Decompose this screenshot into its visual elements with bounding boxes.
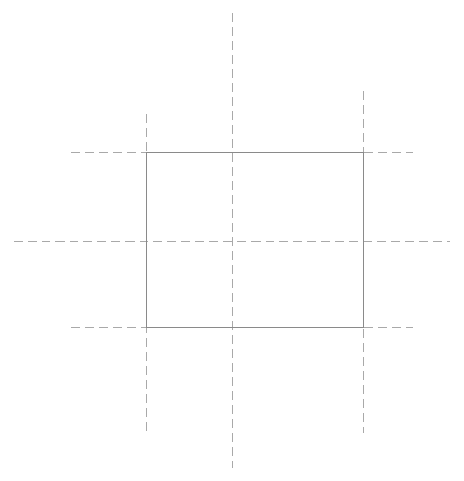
solid-lines-group (147, 153, 364, 328)
main-rectangle (147, 153, 364, 328)
line-drawing-svg (0, 0, 464, 481)
dashed-lines-group (14, 13, 451, 468)
technical-drawing-canvas (0, 0, 464, 481)
